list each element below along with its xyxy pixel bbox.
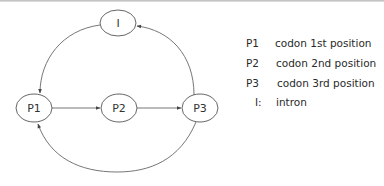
legend-key: I:	[255, 96, 262, 108]
legend-desc: intron	[276, 96, 307, 108]
legend-desc: codon 2nd position	[276, 57, 376, 69]
legend-item-p3: P3 codon 3rd position	[0, 77, 384, 91]
legend-item-p2: P2 codon 2nd position	[0, 57, 384, 71]
legend-item-p1: P1 codon 1st position	[0, 37, 384, 51]
legend-key: P2	[246, 57, 259, 69]
legend-key: P3	[246, 77, 259, 89]
legend-desc: codon 1st position	[275, 37, 371, 49]
legend-key: P1	[246, 37, 259, 49]
legend-item-intron: I: intron	[0, 96, 384, 110]
legend: P1 codon 1st position P2 codon 2nd posit…	[0, 0, 384, 186]
legend-desc: codon 3rd position	[277, 77, 375, 89]
